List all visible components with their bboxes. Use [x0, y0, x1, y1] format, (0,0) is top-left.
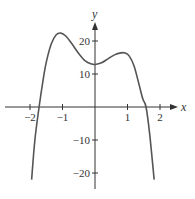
y-tick-label: −10: [73, 134, 91, 146]
y-tick-label: −20: [73, 167, 91, 179]
y-axis-label: y: [91, 7, 98, 21]
x-tick-label: 1: [125, 111, 131, 123]
y-tick-label: 20: [79, 35, 91, 47]
x-axis-label: x: [180, 100, 187, 114]
function-curve: [32, 33, 155, 180]
x-tick-label: 2: [157, 111, 163, 123]
chart: x y −2−1122010−10−20: [0, 0, 195, 199]
x-axis-arrow-icon: [170, 104, 178, 110]
x-tick-label: −2: [24, 111, 36, 123]
y-axis-arrow-icon: [92, 22, 98, 30]
y-tick-label: 10: [79, 68, 91, 80]
x-tick-label: −1: [57, 111, 69, 123]
